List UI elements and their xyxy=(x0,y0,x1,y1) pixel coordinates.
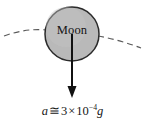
equation-unit: g xyxy=(97,104,103,118)
dashed-orbit-arc-right xyxy=(98,36,141,48)
equation-times-symbol: × xyxy=(67,104,76,118)
acceleration-equation: a≅3×10−4g xyxy=(0,103,145,119)
acceleration-arrow-head xyxy=(68,86,77,98)
equation-exponent: −4 xyxy=(89,103,97,112)
moon-label: Moon xyxy=(44,24,100,37)
equation-base: 10 xyxy=(76,104,89,118)
dashed-orbit-arc-left xyxy=(4,30,46,36)
moon-acceleration-figure: Moon a≅3×10−4g xyxy=(0,0,145,135)
equation-relation-symbol: ≅ xyxy=(48,104,61,118)
